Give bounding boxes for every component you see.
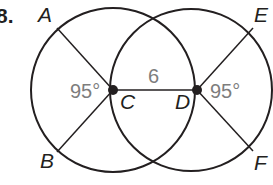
label-f: F <box>254 151 268 174</box>
problem-number: 8. <box>0 4 14 27</box>
label-c: C <box>120 90 136 113</box>
label-d: D <box>175 90 190 113</box>
measure-angle-c: 95° <box>70 80 100 102</box>
label-e: E <box>254 3 269 26</box>
point-c <box>108 85 118 95</box>
measure-cd: 6 <box>148 65 159 87</box>
label-a: A <box>36 3 52 26</box>
two-circles-diagram: 8. A B C D E F 6 95° 95° <box>0 0 273 185</box>
label-b: B <box>40 149 54 172</box>
point-d <box>192 85 202 95</box>
measure-angle-d: 95° <box>210 80 240 102</box>
